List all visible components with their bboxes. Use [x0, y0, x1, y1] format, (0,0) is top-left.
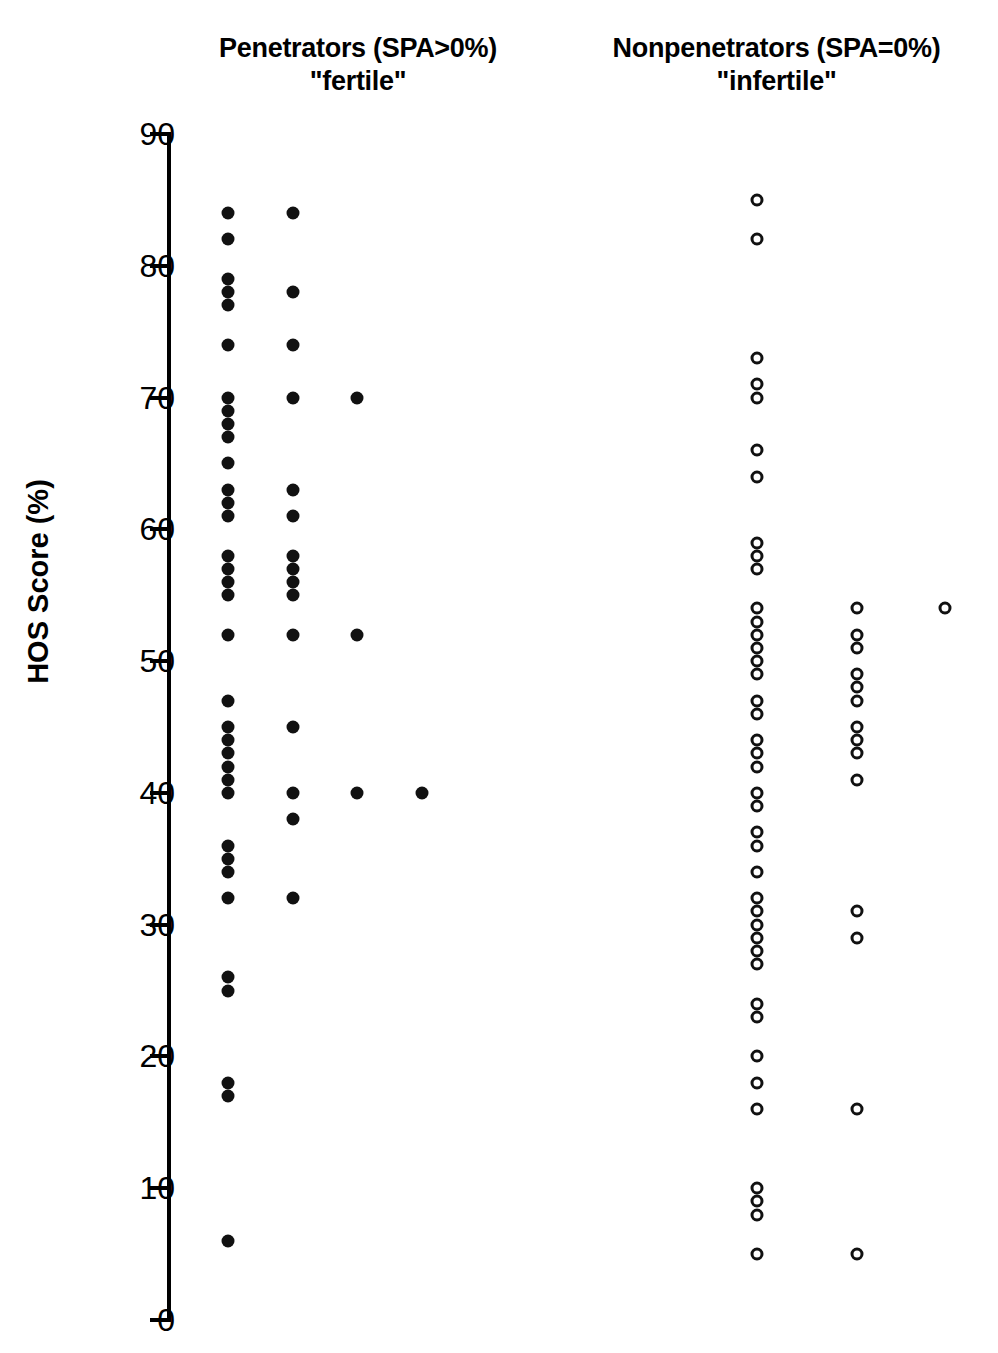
data-point [751, 800, 764, 813]
data-point [222, 417, 235, 430]
data-point [351, 391, 364, 404]
data-point [222, 721, 235, 734]
data-point [751, 892, 764, 905]
data-point [751, 628, 764, 641]
data-point [851, 1248, 864, 1261]
data-point [851, 681, 864, 694]
data-point [287, 786, 300, 799]
data-point [222, 786, 235, 799]
data-point [222, 852, 235, 865]
data-point [751, 1248, 764, 1261]
data-point [287, 207, 300, 220]
data-point [751, 444, 764, 457]
data-point [751, 826, 764, 839]
data-point [222, 431, 235, 444]
data-point [751, 1076, 764, 1089]
data-point [851, 734, 864, 747]
data-point [851, 721, 864, 734]
data-point [751, 839, 764, 852]
data-point [751, 668, 764, 681]
data-point [222, 1076, 235, 1089]
data-point [351, 628, 364, 641]
data-point [751, 760, 764, 773]
data-point [751, 655, 764, 668]
data-point [222, 865, 235, 878]
data-point [222, 207, 235, 220]
data-point [751, 562, 764, 575]
data-point [751, 945, 764, 958]
data-point [222, 747, 235, 760]
data-point [751, 1195, 764, 1208]
data-point [222, 286, 235, 299]
data-point [222, 760, 235, 773]
data-point [222, 549, 235, 562]
data-point [851, 641, 864, 654]
data-point [751, 707, 764, 720]
data-point [222, 272, 235, 285]
data-point [751, 997, 764, 1010]
data-point [222, 628, 235, 641]
data-point [751, 1103, 764, 1116]
data-point [751, 352, 764, 365]
data-point [287, 391, 300, 404]
data-point [222, 576, 235, 589]
data-point [222, 496, 235, 509]
data-point [222, 457, 235, 470]
data-point [751, 931, 764, 944]
data-point [222, 773, 235, 786]
data-point [751, 549, 764, 562]
data-point [222, 1089, 235, 1102]
data-point [751, 918, 764, 931]
figure-canvas: Penetrators (SPA>0%) "fertile" Nonpenetr… [0, 0, 998, 1353]
data-point [751, 391, 764, 404]
data-point [751, 786, 764, 799]
data-point [222, 1234, 235, 1247]
data-point [851, 905, 864, 918]
data-point [287, 721, 300, 734]
data-point [751, 378, 764, 391]
data-point [851, 931, 864, 944]
data-point [751, 615, 764, 628]
data-point [751, 233, 764, 246]
data-point [222, 839, 235, 852]
data-point [851, 773, 864, 786]
data-point [751, 734, 764, 747]
data-point [751, 905, 764, 918]
data-point [222, 338, 235, 351]
data-point [222, 694, 235, 707]
data-point [287, 510, 300, 523]
data-point [287, 628, 300, 641]
data-point [222, 404, 235, 417]
data-point [351, 786, 364, 799]
data-point [751, 602, 764, 615]
data-point [222, 391, 235, 404]
data-point [751, 1010, 764, 1023]
data-point [287, 892, 300, 905]
data-point [751, 1182, 764, 1195]
data-point [222, 734, 235, 747]
data-point [287, 589, 300, 602]
data-point [222, 984, 235, 997]
data-point [751, 470, 764, 483]
data-point [851, 694, 864, 707]
data-point [287, 338, 300, 351]
data-point [751, 747, 764, 760]
data-point [751, 694, 764, 707]
data-point [851, 747, 864, 760]
data-point [751, 865, 764, 878]
data-point [287, 576, 300, 589]
data-point [751, 1050, 764, 1063]
data-point [287, 483, 300, 496]
data-point [287, 813, 300, 826]
data-point [416, 786, 429, 799]
data-point [287, 562, 300, 575]
data-point [222, 510, 235, 523]
data-point [222, 589, 235, 602]
data-point [751, 958, 764, 971]
data-point [222, 483, 235, 496]
data-point [287, 549, 300, 562]
data-point [222, 971, 235, 984]
data-point [751, 193, 764, 206]
data-point [751, 536, 764, 549]
data-point [851, 668, 864, 681]
